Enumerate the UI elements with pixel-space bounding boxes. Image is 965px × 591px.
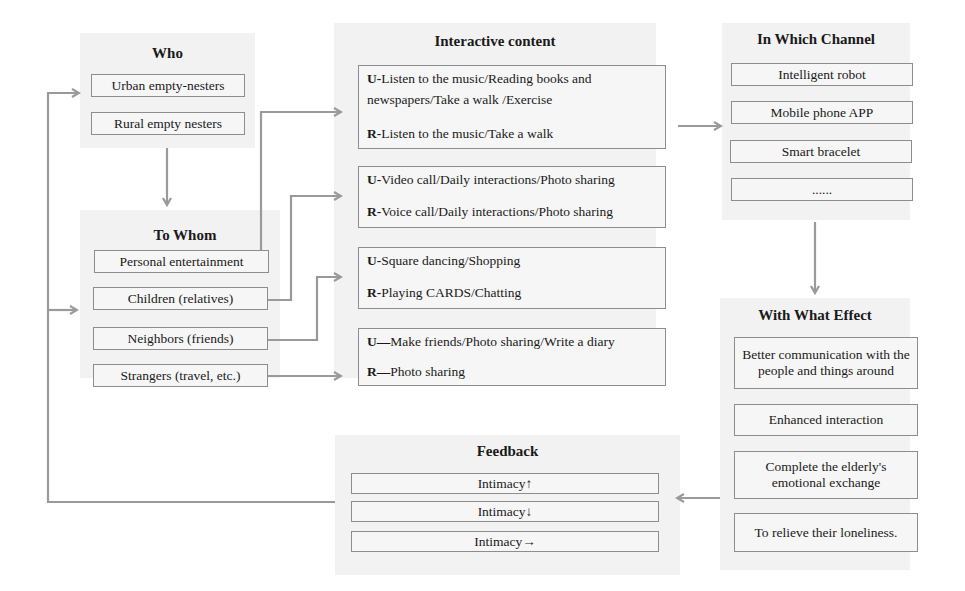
u-label: U: [367, 172, 377, 187]
to-whom-item-children: Children (relatives): [93, 287, 268, 310]
u-label: U: [367, 253, 377, 268]
u-label: U: [367, 71, 377, 86]
r-label: R: [367, 126, 377, 141]
content-group-neighbors: U-Square dancing/Shopping R-Playing CARD…: [358, 247, 666, 309]
separator: —: [377, 334, 391, 349]
effect-title: With What Effect: [720, 307, 910, 324]
r-label: R: [367, 204, 377, 219]
effect-item-loneliness: To relieve their loneliness.: [734, 513, 918, 552]
rural-content: Listen to the music/Take a walk: [381, 126, 553, 141]
to-whom-item-personal: Personal entertainment: [94, 250, 269, 273]
who-title: Who: [80, 45, 255, 62]
feedback-item-increase: Intimacy↑: [351, 473, 659, 494]
channel-item-bracelet: Smart bracelet: [730, 140, 912, 163]
who-item-urban: Urban empty-nesters: [91, 74, 245, 97]
to-whom-title: To Whom: [80, 227, 280, 244]
urban-content: Square dancing/Shopping: [381, 253, 520, 268]
channel-title: In Which Channel: [722, 31, 910, 48]
r-label: R: [367, 285, 377, 300]
effect-item-emotional: Complete the elderly's emotional exchang…: [734, 451, 918, 499]
effect-item-communication: Better communication with the people and…: [734, 337, 918, 389]
to-whom-item-strangers: Strangers (travel, etc.): [93, 364, 268, 387]
channel-item-robot: Intelligent robot: [731, 63, 913, 86]
feedback-item-decrease: Intimacy↓: [351, 501, 659, 522]
urban-content-cont: newspapers/Take a walk /Exercise: [367, 92, 552, 108]
channel-item-app: Mobile phone APP: [731, 101, 913, 124]
separator: —: [377, 364, 391, 379]
content-group-strangers: U—Make friends/Photo sharing/Write a dia…: [358, 328, 666, 386]
urban-content: Listen to the music/Reading books and: [381, 71, 591, 86]
content-group-children: U-Video call/Daily interactions/Photo sh…: [358, 166, 666, 228]
effect-item-interaction: Enhanced interaction: [734, 404, 918, 436]
channel-item-more: ......: [731, 178, 913, 201]
r-label: R: [367, 364, 377, 379]
urban-content: Video call/Daily interactions/Photo shar…: [381, 172, 615, 187]
feedback-item-steady: Intimacy→: [351, 531, 659, 552]
rural-content: Voice call/Daily interactions/Photo shar…: [381, 204, 613, 219]
to-whom-item-neighbors: Neighbors (friends): [93, 327, 268, 350]
urban-content: Make friends/Photo sharing/Write a diary: [390, 334, 614, 349]
rural-content: Playing CARDS/Chatting: [381, 285, 521, 300]
u-label: U: [367, 334, 377, 349]
feedback-title: Feedback: [335, 443, 680, 460]
rural-content: Photo sharing: [390, 364, 465, 379]
who-item-rural: Rural empty nesters: [91, 112, 245, 135]
content-group-personal: U-Listen to the music/Reading books and …: [358, 65, 666, 149]
interactive-content-title: Interactive content: [334, 33, 656, 50]
